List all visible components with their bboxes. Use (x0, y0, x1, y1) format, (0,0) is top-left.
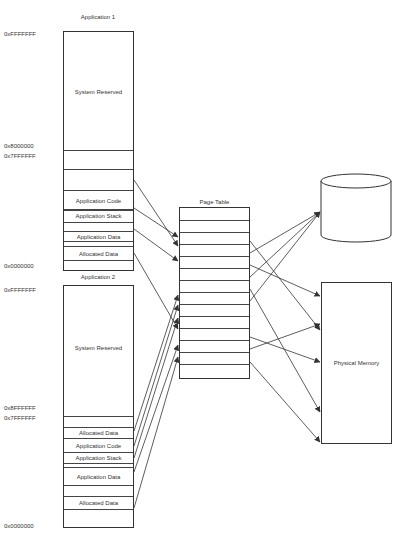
arrow-pt-to-phys-3 (250, 289, 320, 412)
app1-segment-free (64, 260, 133, 271)
app1-address-bottom: 0x0000000 (4, 263, 34, 269)
arrow-pt-to-phys-4 (250, 337, 320, 362)
arrow-pt-to-phys-1 (250, 241, 320, 330)
app2-address-space: System Reserved Allocated Data Applicati… (63, 285, 134, 528)
app2-address-7ffffff: 0x7FFFFFF (4, 415, 36, 421)
arrow-pt-to-phys-6 (250, 362, 320, 442)
app1-segment-application-code: Application Code (64, 190, 133, 210)
app2-segment-gap-2 (64, 485, 133, 496)
page-table-row (180, 280, 249, 281)
arrow-app1-data (134, 229, 178, 261)
app1-address-space: System Reserved Application Code Applica… (63, 31, 134, 271)
arrow-pt-to-paging-2 (250, 212, 320, 277)
page-table-row (180, 328, 249, 329)
page-table-row (180, 316, 249, 317)
app1-address-8000000: 0x8000000 (4, 143, 34, 149)
app2-address-top: 0xFFFFFFF (4, 287, 36, 293)
page-table-row (180, 268, 249, 269)
app1-segment-allocated-data: Allocated Data (64, 246, 133, 260)
app2-title: Application 2 (63, 274, 133, 280)
app2-system-reserved: System Reserved (64, 345, 133, 351)
app1-address-top: 0xFFFFFFF (4, 31, 36, 37)
arrow-app1-stack (134, 208, 178, 237)
app2-segment-allocated-data-2: Allocated Data (64, 496, 133, 509)
page-table-row (180, 220, 249, 221)
arrow-pt-to-phys-5 (250, 324, 320, 349)
arrow-app2-code (134, 305, 178, 446)
page-table-row (180, 304, 249, 305)
app2-address-8ffffff: 0x8FFFFFF (4, 405, 36, 411)
page-table-title: Page Table (179, 199, 250, 205)
arrow-pt-to-paging-3 (250, 212, 320, 301)
page-table-row (180, 364, 249, 365)
app1-title: Application 1 (63, 14, 133, 20)
physical-memory-label: Physical Memory (334, 360, 380, 366)
app1-segment-application-stack: Application Stack (64, 209, 133, 222)
arrow-app2-data (134, 345, 178, 472)
arrow-app2-stack (134, 318, 178, 458)
app1-system-reserved: System Reserved (64, 89, 133, 95)
app1-segment-gap-3 (64, 222, 133, 231)
page-table (179, 207, 250, 379)
app2-address-bottom: 0x0000000 (4, 523, 34, 529)
app2-segment-application-data: Application Data (64, 467, 133, 485)
app1-segment-application-data: Application Data (64, 231, 133, 241)
app1-address-7ffffff: 0x7FFFFFF (4, 153, 36, 159)
app2-segment-allocated-data-1: Allocated Data (64, 427, 133, 438)
paging-file-cylinder (321, 174, 391, 242)
app2-segment-application-stack: Application Stack (64, 452, 133, 463)
page-table-row (180, 340, 249, 341)
app2-boundary-8ffffff (64, 416, 133, 427)
app2-segment-free (64, 509, 133, 527)
app2-segment-application-code: Application Code (64, 438, 133, 452)
arrow-app2-allocated-2 (134, 357, 178, 508)
app1-boundary-8000000 (64, 150, 133, 169)
page-table-row (180, 244, 249, 245)
page-table-row (180, 352, 249, 353)
arrow-pt-to-paging-1 (250, 212, 320, 253)
paging-file-label: Paging File (321, 215, 392, 221)
page-table-row (180, 232, 249, 233)
arrow-app2-allocated-1 (134, 295, 178, 431)
arrow-app1-allocated (134, 253, 178, 329)
arrow-app1-code (134, 180, 178, 246)
page-table-row (180, 256, 249, 257)
app1-segment-gap (64, 169, 133, 190)
physical-memory: Physical Memory (321, 282, 392, 444)
arrow-pt-to-phys-2 (250, 265, 320, 296)
page-table-row (180, 292, 249, 293)
